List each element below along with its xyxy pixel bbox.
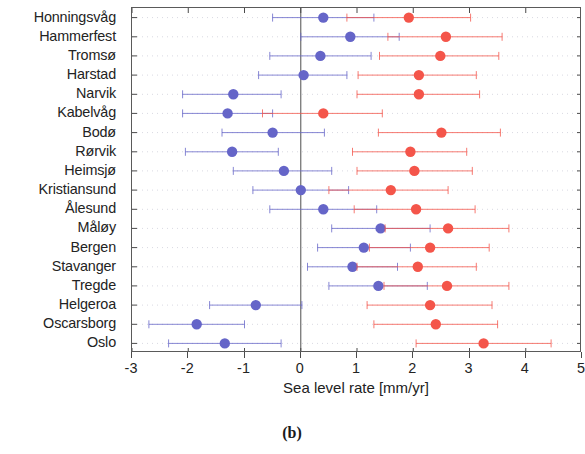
data-point	[251, 300, 261, 310]
data-point	[414, 70, 424, 80]
x-axis-tick-label: 3	[464, 360, 472, 376]
x-axis-tick-label: -1	[237, 360, 250, 376]
data-point	[425, 300, 435, 310]
data-point	[404, 12, 414, 22]
series-red	[263, 12, 552, 348]
category-label: Ålesund	[65, 201, 116, 215]
data-point	[228, 89, 238, 99]
data-point	[405, 147, 415, 157]
x-axis-tick	[356, 352, 357, 358]
data-point	[431, 319, 441, 329]
x-axis-tick-label: 1	[352, 360, 360, 376]
data-point	[267, 127, 277, 137]
data-point	[315, 51, 325, 61]
figure-caption: (b)	[0, 424, 584, 442]
category-label: Bodø	[82, 125, 116, 139]
category-label: Rørvik	[75, 144, 116, 158]
x-axis-tick-label: 5	[577, 360, 585, 376]
plot-svg	[132, 8, 581, 352]
category-label: Kristiansund	[39, 182, 116, 196]
data-point	[436, 127, 446, 137]
x-axis-tick-label: 0	[296, 360, 304, 376]
category-label: Tregde	[72, 278, 116, 292]
data-point	[220, 338, 230, 348]
category-label: Honningsvåg	[34, 10, 116, 24]
data-point	[413, 262, 423, 272]
data-point	[359, 242, 369, 252]
data-point	[386, 185, 396, 195]
category-label: Harstad	[67, 67, 116, 81]
data-point	[425, 242, 435, 252]
data-point	[435, 51, 445, 61]
x-axis-tick	[581, 352, 582, 358]
category-label: Heimsjø	[64, 163, 116, 177]
category-label: Stavanger	[52, 259, 116, 273]
x-axis: -3-2-1012345	[131, 352, 581, 378]
data-point	[296, 185, 306, 195]
category-label: Oslo	[87, 335, 116, 349]
category-label: Tromsø	[68, 48, 116, 62]
x-axis-title: Sea level rate [mm/yr]	[131, 379, 581, 396]
data-point	[441, 32, 451, 42]
data-point	[318, 204, 328, 214]
x-axis-tick	[412, 352, 413, 358]
category-label: Helgeroa	[59, 297, 116, 311]
data-point	[347, 262, 357, 272]
x-axis-tick-label: -2	[181, 360, 194, 376]
data-point	[411, 204, 421, 214]
x-axis-tick-label: 4	[521, 360, 529, 376]
x-axis-tick	[300, 352, 301, 358]
category-label: Hammerfest	[39, 29, 116, 43]
x-axis-tick	[469, 352, 470, 358]
x-axis-tick	[187, 352, 188, 358]
category-axis-labels: HonningsvågHammerfestTromsøHarstadNarvik…	[0, 7, 122, 352]
data-point	[318, 108, 328, 118]
data-point	[222, 108, 232, 118]
x-axis-tick	[244, 352, 245, 358]
plot-area	[131, 7, 581, 352]
data-point	[279, 166, 289, 176]
x-axis-tick	[525, 352, 526, 358]
data-point	[414, 89, 424, 99]
data-point	[409, 166, 419, 176]
category-label: Kabelvåg	[57, 105, 116, 119]
data-point	[345, 32, 355, 42]
category-label: Bergen	[70, 240, 116, 254]
data-point	[318, 12, 328, 22]
x-axis-tick-label: 2	[408, 360, 416, 376]
data-point	[442, 281, 452, 291]
data-point	[443, 223, 453, 233]
data-point	[375, 223, 385, 233]
data-point	[478, 338, 488, 348]
series-blue	[149, 12, 430, 348]
data-point	[298, 70, 308, 80]
category-label: Narvik	[76, 86, 116, 100]
category-label: Måløy	[78, 220, 116, 234]
data-point	[192, 319, 202, 329]
x-axis-tick	[131, 352, 132, 358]
category-label: Oscarsborg	[43, 316, 116, 330]
data-point	[373, 281, 383, 291]
x-axis-tick-label: -3	[125, 360, 138, 376]
data-point	[227, 147, 237, 157]
